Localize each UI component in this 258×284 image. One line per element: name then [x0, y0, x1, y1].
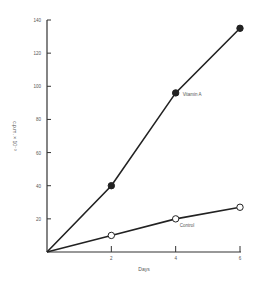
data-point-vitamin-a — [108, 183, 114, 189]
y-tick-label: 60 — [36, 151, 42, 156]
y-axis-label: c.p.m. × 10⁻³ — [12, 121, 18, 151]
y-tick-label: 140 — [33, 18, 41, 23]
data-point-vitamin-a — [237, 25, 243, 31]
x-tick-label: 2 — [110, 256, 113, 261]
data-point-vitamin-a — [172, 90, 178, 96]
y-tick-label: 20 — [36, 217, 42, 222]
x-tick-label: 6 — [239, 256, 242, 261]
y-tick-label: 80 — [36, 117, 42, 122]
y-tick-label: 40 — [36, 184, 42, 189]
data-point-control — [237, 204, 243, 210]
line-chart: 20406080100120140 246 c.p.m. × 10⁻³ Days… — [0, 0, 258, 284]
y-tick-label: 120 — [33, 51, 41, 56]
x-tick-label: 4 — [174, 256, 177, 261]
x-axis-label: Days — [138, 266, 150, 272]
series-label-vitamin-a: Vitamin A — [183, 92, 202, 97]
series-line-vitamin-a — [47, 28, 240, 252]
data-point-control — [172, 216, 178, 222]
y-tick-label: 100 — [33, 84, 41, 89]
series-line-control — [47, 207, 240, 252]
data-point-control — [108, 232, 114, 238]
series-label-control: Control — [180, 223, 195, 228]
